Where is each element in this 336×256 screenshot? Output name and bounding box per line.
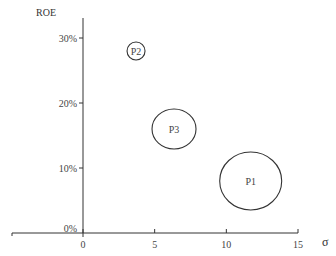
x-tick-label: 10 (221, 239, 231, 250)
bubble-label: P3 (169, 124, 180, 135)
y-tick-label: 30% (59, 33, 77, 44)
bubble-p2: P2 (127, 42, 145, 60)
y-tick-label: 10% (59, 163, 77, 174)
y-tick-label: 0% (64, 223, 77, 234)
bubbles: P1P2P3 (127, 42, 282, 210)
x-tick-label: 0 (81, 239, 86, 250)
x-tick-label: 5 (152, 239, 157, 250)
bubble-chart: 0510150%10%20%30%ROEσ P1P2P3 (0, 0, 336, 256)
bubble-label: P2 (131, 46, 142, 57)
bubble-label: P1 (245, 176, 256, 187)
x-axis-title: σ (322, 235, 329, 249)
y-axis-title: ROE (36, 7, 56, 18)
y-tick-label: 20% (59, 98, 77, 109)
bubble-p1: P1 (220, 152, 282, 210)
bubble-p3: P3 (152, 109, 196, 149)
x-tick-label: 15 (293, 239, 303, 250)
